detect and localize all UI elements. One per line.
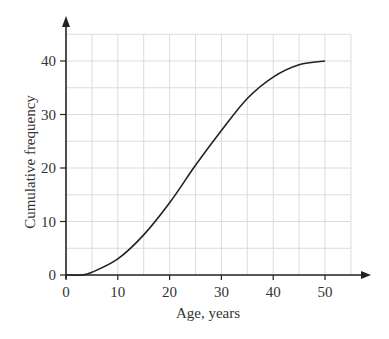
- grid-lines: [66, 34, 351, 275]
- y-tick-label: 0: [49, 267, 57, 283]
- y-tick-label: 20: [41, 160, 56, 176]
- tick-labels: 01020304050010203040: [41, 53, 333, 300]
- x-tick-label: 50: [318, 284, 333, 300]
- x-tick-label: 20: [162, 284, 177, 300]
- x-tick-label: 10: [110, 284, 125, 300]
- y-tick-label: 40: [41, 53, 56, 69]
- y-tick-label: 10: [41, 214, 56, 230]
- x-axis-label: Age, years: [176, 305, 240, 321]
- cumulative-frequency-chart: 01020304050010203040 Age, years Cumulati…: [0, 0, 389, 339]
- x-axis-arrow-icon: [361, 271, 371, 279]
- y-tick-label: 30: [41, 107, 56, 123]
- x-tick-label: 40: [266, 284, 281, 300]
- x-tick-label: 0: [62, 284, 70, 300]
- y-axis-arrow-icon: [62, 16, 70, 27]
- x-tick-label: 30: [214, 284, 229, 300]
- y-axis-label: Cumulative frequency: [22, 95, 38, 229]
